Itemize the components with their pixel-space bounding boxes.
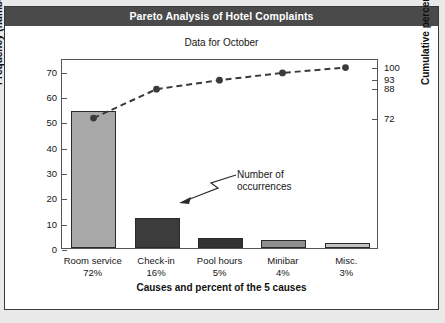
y-tick-left (62, 98, 67, 99)
y-tick-right (372, 119, 377, 120)
bar (135, 218, 180, 248)
y-tick-label-left: 20 (17, 193, 57, 204)
y-tick-left (62, 73, 67, 74)
bar (261, 240, 306, 248)
bar (71, 111, 116, 248)
y-tick-right (372, 89, 377, 90)
x-category-label: Pool hours5% (197, 255, 242, 279)
y-tick-left (62, 149, 67, 150)
plot-area (61, 59, 378, 249)
category-name: Room service (64, 255, 122, 267)
y-tick-label-right: 100 (384, 61, 424, 72)
y-tick-label-left: 50 (17, 117, 57, 128)
y-tick-label-left: 40 (17, 142, 57, 153)
bar (325, 243, 370, 248)
category-percent: 72% (64, 267, 122, 279)
y-tick-left (62, 123, 67, 124)
y-tick-right (372, 80, 377, 81)
y-tick-right (372, 68, 377, 69)
y-tick-label-left: 30 (17, 168, 57, 179)
category-percent: 4% (267, 267, 298, 279)
y-tick-left (62, 250, 67, 251)
y-tick-label-left: 60 (17, 92, 57, 103)
annotation-label: Number of occurrences (237, 169, 291, 193)
y-axis-title-left: Frequency (number) (0, 0, 4, 85)
cumulative-marker (153, 86, 160, 93)
x-axis-title: Causes and percent of the 5 causes (5, 282, 438, 293)
y-axis-title-right: Cumulative percent (420, 0, 431, 85)
category-name: Misc. (335, 255, 357, 267)
y-tick-left (62, 199, 67, 200)
category-name: Pool hours (197, 255, 242, 267)
annotation-line-1: Number of (237, 169, 291, 181)
cumulative-marker (279, 70, 286, 77)
x-category-label: Minibar4% (267, 255, 298, 279)
y-tick-left (62, 225, 67, 226)
y-tick-label-right: 72 (384, 112, 424, 123)
x-category-label: Check-in16% (137, 255, 175, 279)
chart-subtitle: Data for October (5, 37, 438, 48)
category-percent: 16% (137, 267, 175, 279)
cumulative-marker (342, 64, 349, 71)
category-percent: 3% (335, 267, 357, 279)
y-tick-label-left: 0 (17, 244, 57, 255)
chart-title-bar: Pareto Analysis of Hotel Complaints (5, 7, 438, 26)
category-percent: 5% (197, 267, 242, 279)
cumulative-line (94, 68, 346, 119)
category-name: Minibar (267, 255, 298, 267)
annotation-line-2: occurrences (237, 181, 291, 193)
y-tick-label-left: 10 (17, 218, 57, 229)
x-category-label: Room service72% (64, 255, 122, 279)
x-category-label: Misc.3% (335, 255, 357, 279)
cumulative-marker (216, 77, 223, 84)
category-name: Check-in (137, 255, 175, 267)
y-tick-left (62, 174, 67, 175)
chart-card: Pareto Analysis of Hotel Complaints Data… (4, 6, 439, 310)
y-tick-label-right: 93 (384, 74, 424, 85)
y-tick-label-left: 70 (17, 66, 57, 77)
bar (198, 238, 243, 248)
